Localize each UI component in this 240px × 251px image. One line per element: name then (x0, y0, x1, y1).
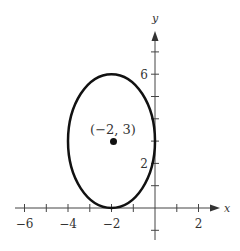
x-axis-label: x (224, 202, 231, 215)
y-axis: 2 6 y (140, 12, 159, 240)
x-axis-arrow-icon (210, 205, 220, 212)
x-tick-label-neg4: −4 (59, 217, 77, 231)
x-tick-label-neg2: −2 (103, 217, 121, 231)
y-axis-arrow-icon (152, 31, 159, 41)
ellipse-plot: −6 −4 −2 2 x 2 6 y (−2, 3) (0, 0, 240, 251)
y-tick-label-2: 2 (140, 157, 148, 171)
center-point (110, 138, 117, 145)
center-point-label: (−2, 3) (90, 122, 136, 137)
y-axis-label: y (151, 12, 159, 25)
y-tick-label-6: 6 (140, 68, 148, 82)
x-tick-label-2: 2 (195, 217, 203, 231)
x-tick-label-neg6: −6 (16, 217, 34, 231)
